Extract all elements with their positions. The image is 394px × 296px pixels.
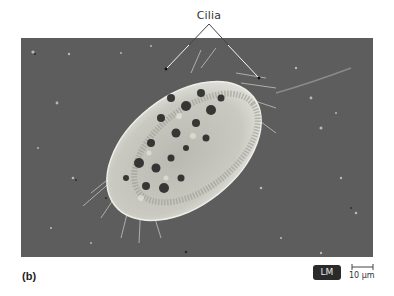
- panel-letter: (b): [22, 270, 36, 282]
- protozoan-cell-illustration: [21, 38, 373, 257]
- scale-bar-label: 10 µm: [349, 271, 375, 280]
- cilia-label: Cilia: [190, 9, 228, 22]
- micrograph-image: [21, 38, 373, 257]
- microscopy-type-badge: LM: [313, 265, 341, 280]
- scale-bar-icon: [351, 263, 375, 271]
- figure-panel: Cilia: [0, 0, 394, 296]
